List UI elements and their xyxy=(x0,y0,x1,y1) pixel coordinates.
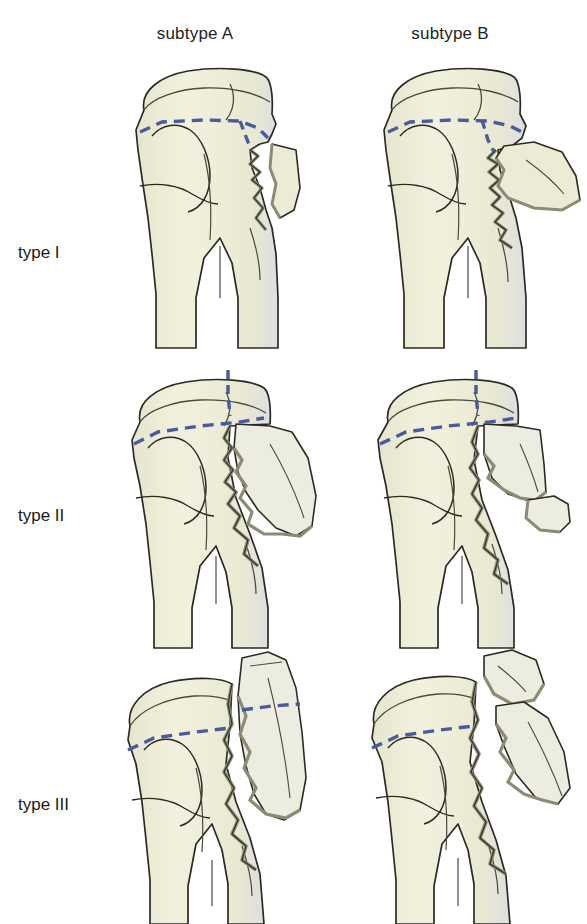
row-label-type-2: type II xyxy=(18,506,64,526)
bone-main-body xyxy=(372,676,510,924)
bone-fragment-1 xyxy=(270,144,300,218)
bone-main-body xyxy=(384,69,526,348)
column-header-subtype-b: subtype B xyxy=(380,24,520,44)
column-header-subtype-a: subtype A xyxy=(130,24,260,44)
bone-fragment-2 xyxy=(526,496,570,532)
panel-type-1-subtype-a xyxy=(100,58,330,348)
bone-main-body xyxy=(136,69,278,348)
bone-main-body xyxy=(132,380,270,648)
panel-type-2-subtype-b xyxy=(348,368,586,648)
row-label-type-1: type I xyxy=(18,243,60,263)
bone-fragment-1 xyxy=(484,424,546,502)
bone-fragment-1 xyxy=(496,142,580,210)
bone-main-body xyxy=(378,380,518,648)
panel-type-3-subtype-b xyxy=(348,648,586,924)
bone-fragment-2 xyxy=(496,702,570,804)
bone-fragment-1 xyxy=(484,650,544,704)
bone-fragment-1 xyxy=(234,424,316,536)
panel-type-3-subtype-a xyxy=(100,648,332,924)
panel-type-1-subtype-b xyxy=(348,58,584,348)
panel-type-2-subtype-a xyxy=(100,368,332,648)
bone-fragment-1 xyxy=(238,652,306,820)
row-label-type-3: type III xyxy=(18,795,69,815)
fracture-classification-figure: subtype A subtype B type I type II type … xyxy=(0,0,587,924)
